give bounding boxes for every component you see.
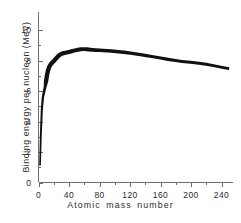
axis-lines [39,12,234,183]
x-axis-title: Atomic mass number [0,200,241,210]
x-tick-label: 0 [36,190,41,200]
y-axis-title: Binding energy per nucleon (MeV) [21,7,31,187]
binding-energy-curve [39,47,229,165]
x-tick-label: 240 [214,190,229,200]
x-tick-label: 40 [64,190,74,200]
x-tick-label: 80 [94,190,104,200]
x-tick-label: 200 [183,190,198,200]
x-axis-ticks [40,183,223,188]
x-tick-label: 120 [122,190,137,200]
x-tick-label: 160 [153,190,168,200]
binding-energy-chart: 04080120160200240 0246810 Atomic mass nu… [0,0,241,223]
